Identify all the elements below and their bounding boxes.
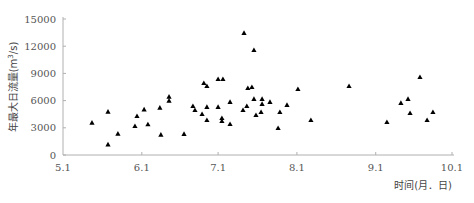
data-point-triangle-icon	[157, 105, 162, 110]
y-tick-label: 12000	[24, 41, 56, 52]
data-point-triangle-icon	[105, 109, 110, 114]
x-tick-label: 8.1	[289, 162, 305, 173]
data-point-triangle-icon	[259, 96, 264, 101]
data-point-triangle-icon	[398, 100, 403, 105]
data-point-triangle-icon	[240, 107, 245, 112]
data-point-triangle-icon	[215, 76, 220, 81]
data-point-triangle-icon	[430, 109, 435, 114]
data-point-triangle-icon	[199, 111, 204, 116]
data-points	[89, 30, 435, 146]
data-point-triangle-icon	[405, 96, 410, 101]
data-point-triangle-icon	[181, 131, 186, 136]
data-point-triangle-icon	[227, 99, 232, 104]
data-point-triangle-icon	[249, 84, 254, 89]
data-point-triangle-icon	[220, 76, 225, 81]
data-point-triangle-icon	[424, 117, 429, 122]
y-tick-label: 15000	[24, 14, 56, 25]
data-point-triangle-icon	[215, 104, 220, 109]
data-point-triangle-icon	[308, 117, 313, 122]
data-point-triangle-icon	[253, 112, 258, 117]
data-point-triangle-icon	[142, 107, 147, 112]
data-point-triangle-icon	[192, 107, 197, 112]
x-tick-label: 6.1	[134, 162, 150, 173]
data-point-triangle-icon	[190, 103, 195, 108]
data-point-triangle-icon	[201, 80, 206, 85]
x-axis-title: 时间(月．日)	[394, 179, 452, 191]
data-point-triangle-icon	[105, 142, 110, 147]
data-point-triangle-icon	[275, 125, 280, 130]
data-point-triangle-icon	[204, 104, 209, 109]
y-axis-title-tail: /s)	[8, 42, 19, 55]
data-point-triangle-icon	[277, 109, 282, 114]
data-point-triangle-icon	[145, 122, 150, 127]
data-point-triangle-icon	[284, 102, 289, 107]
data-point-triangle-icon	[258, 109, 263, 114]
data-point-triangle-icon	[267, 99, 272, 104]
data-point-triangle-icon	[407, 110, 412, 115]
data-point-triangle-icon	[295, 86, 300, 91]
x-tick-label: 10.1	[441, 162, 463, 173]
data-point-triangle-icon	[166, 98, 171, 103]
x-tick-label: 7.1	[210, 162, 226, 173]
axes: 030006000900012000150005.16.17.18.19.110…	[24, 14, 463, 174]
plot-area: 030006000900012000150005.16.17.18.19.110…	[0, 0, 474, 203]
y-tick-label: 0	[50, 150, 56, 161]
y-axis-title: 年最大日流量(m3/s)	[7, 42, 19, 133]
data-point-triangle-icon	[132, 123, 137, 128]
y-axis-title-main: 年最大日流量(m	[7, 59, 19, 133]
data-point-triangle-icon	[259, 101, 264, 106]
data-point-triangle-icon	[89, 120, 94, 125]
data-point-triangle-icon	[346, 83, 351, 88]
data-point-triangle-icon	[134, 113, 139, 118]
x-tick-label: 5.1	[55, 162, 71, 173]
data-point-triangle-icon	[251, 96, 256, 101]
data-point-triangle-icon	[227, 121, 232, 126]
data-point-triangle-icon	[417, 74, 422, 79]
data-point-triangle-icon	[245, 85, 250, 90]
data-point-triangle-icon	[166, 94, 171, 99]
data-point-triangle-icon	[384, 119, 389, 124]
data-point-triangle-icon	[244, 103, 249, 108]
y-tick-label: 6000	[31, 95, 56, 106]
x-tick-label: 9.1	[368, 162, 384, 173]
data-point-triangle-icon	[241, 30, 246, 35]
data-point-triangle-icon	[115, 131, 120, 136]
y-tick-label: 9000	[31, 68, 56, 79]
scatter-chart: 030006000900012000150005.16.17.18.19.110…	[0, 0, 474, 203]
data-point-triangle-icon	[204, 117, 209, 122]
data-point-triangle-icon	[251, 47, 256, 52]
data-point-triangle-icon	[158, 132, 163, 137]
y-tick-label: 3000	[31, 122, 56, 133]
axis-labels: 时间(月．日) 年最大日流量(m3/s)	[7, 42, 452, 191]
